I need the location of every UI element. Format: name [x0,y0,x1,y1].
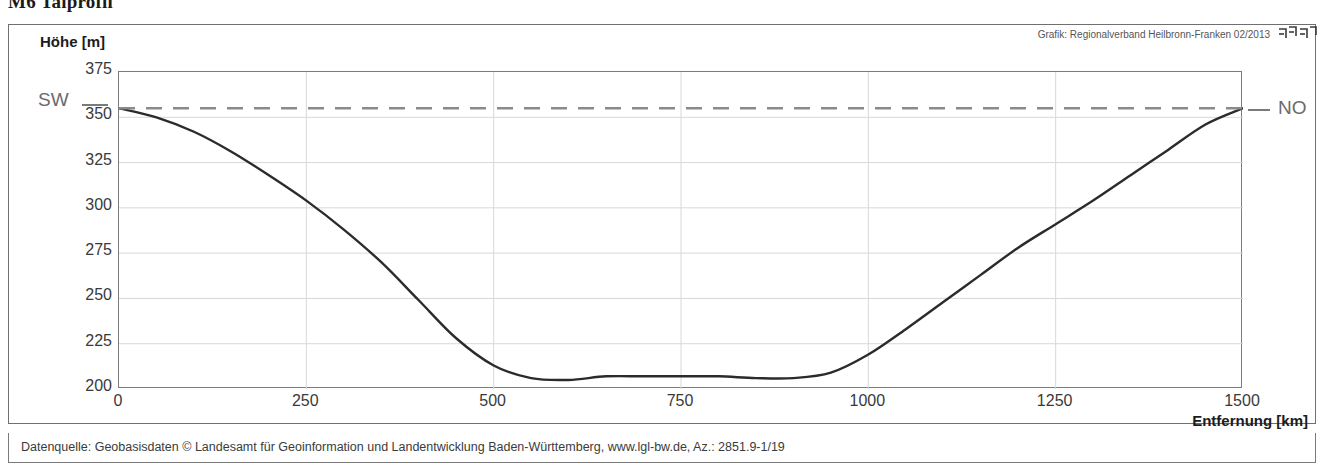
x-tick-label: 500 [448,392,538,410]
y-tick-label: 275 [66,241,112,259]
x-axis-ticks: 0250500750100012501500 [0,392,1324,416]
x-tick-label: 1500 [1197,392,1287,410]
source-bar: Datenquelle: Geobasisdaten © Landesamt f… [8,433,1316,463]
x-tick-label: 1000 [822,392,912,410]
y-tick-label: 375 [66,60,112,78]
y-tick-label: 350 [66,105,112,123]
credit-text: Grafik: Regionalverband Heilbronn-Franke… [1038,29,1270,40]
x-tick-label: 250 [260,392,350,410]
y-tick-label: 300 [66,196,112,214]
y-tick-label: 325 [66,151,112,169]
x-axis-title: Entfernung [km] [1192,412,1308,429]
x-tick-label: 0 [73,392,163,410]
regionalverband-heilbronn-franken-logo [1276,24,1318,50]
y-tick-label: 225 [66,332,112,350]
direction-label-no: NO [1278,97,1307,119]
x-tick-label: 750 [635,392,725,410]
no-dash-marker [1248,109,1270,111]
source-note: Datenquelle: Geobasisdaten © Landesamt f… [21,440,785,454]
elevation-profile-svg [119,72,1243,389]
plot-area [118,71,1242,388]
x-tick-label: 1250 [1010,392,1100,410]
y-tick-label: 250 [66,286,112,304]
